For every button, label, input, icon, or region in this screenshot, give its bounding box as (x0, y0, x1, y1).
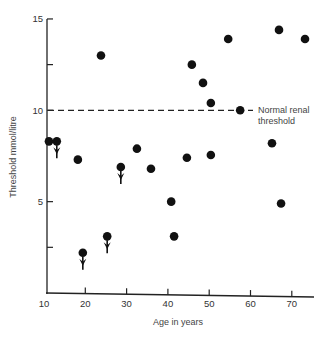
data-point (167, 197, 176, 206)
y-tick-label: 15 (32, 13, 43, 24)
data-point (236, 106, 245, 115)
data-point (117, 163, 126, 184)
y-tick-label: 10 (32, 105, 43, 116)
scatter-chart: 5101510203040506070 Normal renal thresho… (0, 0, 330, 339)
data-point (275, 26, 284, 35)
data-point (301, 35, 310, 44)
x-tick-label: 70 (287, 298, 298, 309)
data-point (188, 60, 197, 69)
x-axis-title: Age in years (153, 317, 204, 327)
y-tick-label: 5 (38, 196, 43, 207)
x-tick-label: 50 (204, 298, 215, 309)
x-tick-label: 40 (163, 298, 174, 309)
x-tick-label: 10 (39, 298, 50, 309)
data-point (199, 79, 208, 88)
reference-label-line1: Normal renal (258, 105, 310, 115)
data-points (45, 26, 310, 270)
data-point (45, 137, 54, 146)
data-point (277, 199, 286, 208)
data-point (79, 249, 88, 270)
x-tick-label: 20 (80, 298, 91, 309)
data-point (97, 51, 106, 60)
x-tick-label: 60 (245, 298, 256, 309)
data-point (170, 232, 179, 241)
data-point (103, 232, 112, 253)
reference-label-line2: threshold (258, 116, 295, 126)
data-point (207, 99, 216, 108)
data-point (53, 137, 62, 158)
data-point (207, 151, 216, 160)
y-axis-title: Threshold mmol/litre (8, 116, 18, 198)
data-point (147, 164, 156, 173)
data-point (183, 154, 192, 163)
x-axis-line (46, 293, 314, 297)
data-point (224, 35, 233, 44)
data-point (268, 139, 277, 148)
x-tick-label: 30 (121, 298, 132, 309)
data-point (133, 144, 142, 153)
data-point (74, 155, 83, 164)
